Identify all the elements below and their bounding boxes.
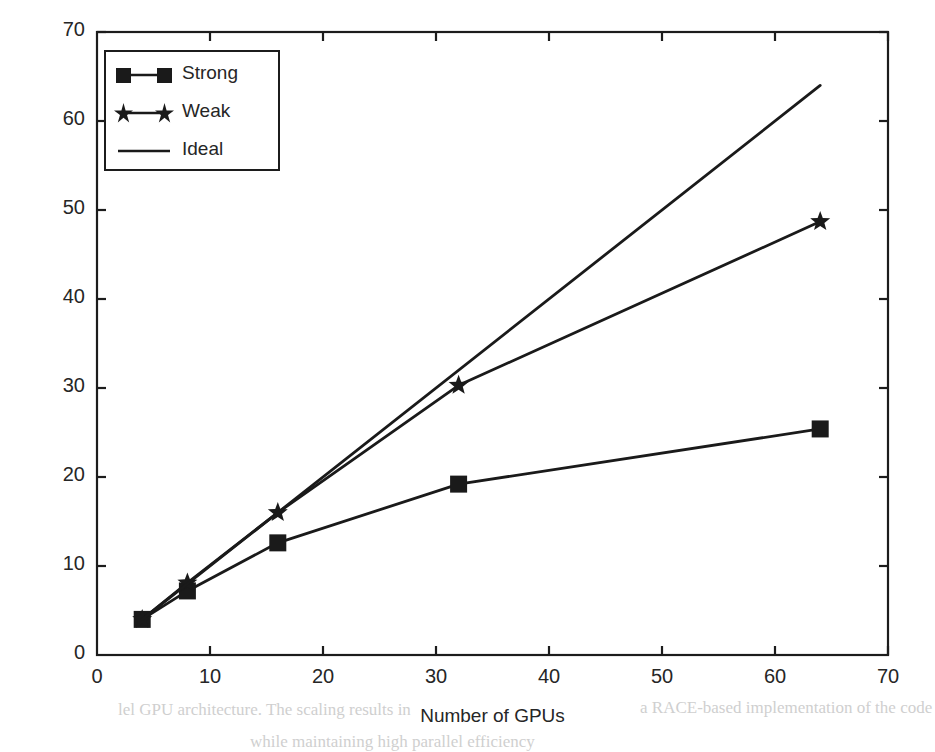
- legend-entry-ideal[interactable]: Ideal: [106, 132, 282, 170]
- legend-entry-strong[interactable]: Strong: [106, 56, 282, 94]
- legend-label-ideal: Ideal: [182, 138, 223, 160]
- legend-box: Strong Weak Ideal: [104, 50, 280, 171]
- y-tick-label: 20: [39, 463, 85, 486]
- y-tick-label: 0: [39, 641, 85, 664]
- x-tick-label: 30: [406, 665, 466, 688]
- x-tick-label: 60: [745, 665, 805, 688]
- legend-marker-plain-line: [114, 132, 174, 170]
- x-tick-label: 20: [293, 665, 353, 688]
- x-tick-label: 50: [632, 665, 692, 688]
- x-tick-label: 70: [858, 665, 918, 688]
- legend-marker-square-line: [114, 56, 174, 94]
- legend-label-weak: Weak: [182, 100, 230, 122]
- y-tick-label: 50: [39, 196, 85, 219]
- x-axis-title: Number of GPUs: [97, 705, 888, 727]
- y-tick-label: 10: [39, 552, 85, 575]
- y-tick-label: 40: [39, 285, 85, 308]
- x-tick-label: 0: [67, 665, 127, 688]
- y-tick-label: 60: [39, 107, 85, 130]
- y-tick-label: 70: [39, 18, 85, 41]
- x-tick-label: 10: [180, 665, 240, 688]
- legend-label-strong: Strong: [182, 62, 238, 84]
- legend-marker-star-line: [114, 94, 174, 132]
- series-strong: [134, 420, 829, 627]
- x-tick-label: 40: [519, 665, 579, 688]
- y-tick-label: 30: [39, 374, 85, 397]
- legend-entry-weak[interactable]: Weak: [106, 94, 282, 132]
